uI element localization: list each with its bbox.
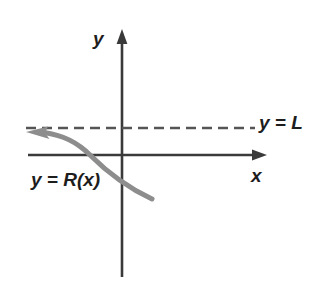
function-label: y = R(x) [31, 170, 100, 189]
x-axis-label: x [251, 166, 262, 185]
x-axis [28, 150, 267, 161]
asymptote-diagram: y x y = L y = R(x) [0, 0, 313, 283]
diagram-canvas [0, 0, 313, 283]
asymptote-label: y = L [259, 113, 303, 132]
y-axis [117, 29, 128, 277]
y-axis-arrowhead-icon [117, 29, 128, 44]
y-axis-label: y [93, 29, 104, 48]
x-axis-arrowhead-icon [252, 150, 267, 161]
